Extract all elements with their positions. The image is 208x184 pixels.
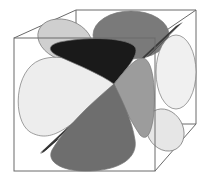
orbital-cube-diagram <box>0 0 208 184</box>
lobe-right-light <box>156 35 196 109</box>
